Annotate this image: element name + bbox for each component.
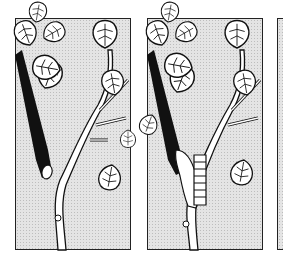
illustration-art [0, 0, 283, 264]
panel-2-art [137, 1, 260, 250]
panel-1-art [11, 1, 135, 250]
caterpillar [175, 150, 206, 208]
